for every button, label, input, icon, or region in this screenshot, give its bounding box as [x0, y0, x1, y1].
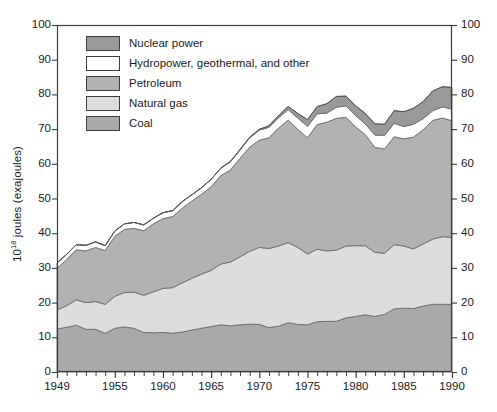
legend-label-1: Hydropower, geothermal, and other	[129, 57, 309, 70]
legend-swatch-icon-1	[86, 56, 120, 71]
legend-item-4: Coal	[86, 116, 309, 131]
legend-label-3: Natural gas	[129, 97, 188, 110]
legend-item-1: Hydropower, geothermal, and other	[86, 56, 309, 71]
legend-item-3: Natural gas	[86, 96, 309, 111]
legend-swatch-icon-3	[86, 96, 120, 111]
legend-item-2: Petroleum	[86, 76, 309, 91]
legend-label-4: Coal	[129, 117, 153, 130]
legend-swatch-icon-2	[86, 76, 120, 91]
legend-item-0: Nuclear power	[86, 36, 309, 51]
chart-figure: 1018 joules (exajoules) 0102030405060708…	[0, 0, 497, 412]
legend-swatch-icon-0	[86, 36, 120, 51]
legend-swatch-icon-4	[86, 116, 120, 131]
chart-legend: Nuclear powerHydropower, geothermal, and…	[86, 36, 309, 131]
legend-label-2: Petroleum	[129, 77, 181, 90]
legend-label-0: Nuclear power	[129, 37, 203, 50]
